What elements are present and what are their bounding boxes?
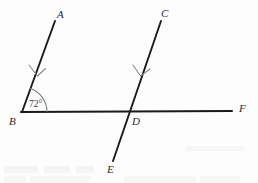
point-label-a: A xyxy=(57,9,64,20)
point-label-c: C xyxy=(161,8,168,19)
geometry-canvas xyxy=(0,0,258,183)
segment-BF xyxy=(21,111,232,112)
point-label-f: F xyxy=(239,103,246,114)
point-label-b: B xyxy=(9,116,16,127)
angle-measure-label: 72° xyxy=(29,100,42,110)
point-label-d: D xyxy=(132,116,140,127)
geometry-figure: A B C D E F 72° xyxy=(0,0,258,183)
parallel-tick-CE xyxy=(133,65,150,76)
point-label-e: E xyxy=(107,164,114,175)
segment-CE xyxy=(113,21,161,161)
